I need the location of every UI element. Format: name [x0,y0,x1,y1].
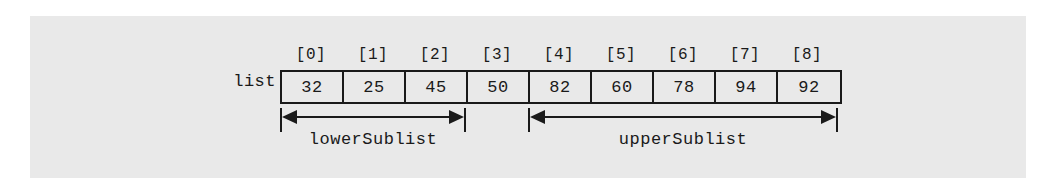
array-cell-0: 32 [282,72,344,102]
index-label-6: [6] [652,46,714,68]
array-cell-5: 60 [592,72,654,102]
double-arrow-icon [280,108,466,132]
index-label-row: [0][1][2][3][4][5][6][7][8] [280,46,838,68]
sublist-label: upperSublist [528,130,838,149]
array-cell-3: 50 [468,72,530,102]
array-name-label: list [216,72,276,91]
diagram-screenshot: list [0][1][2][3][4][5][6][7][8] 3225455… [0,0,1056,196]
array-cell-4: 82 [530,72,592,102]
array-cell-7: 94 [716,72,778,102]
index-label-8: [8] [776,46,838,68]
array-cells: 322545508260789492 [280,70,842,104]
index-label-7: [7] [714,46,776,68]
index-label-5: [5] [590,46,652,68]
array-cell-2: 45 [406,72,468,102]
array-cell-1: 25 [344,72,406,102]
sublist-label: lowerSublist [280,130,466,149]
diagram-panel: list [0][1][2][3][4][5][6][7][8] 3225455… [30,16,1026,178]
array-cell-6: 78 [654,72,716,102]
index-label-1: [1] [342,46,404,68]
double-arrow-icon [528,108,838,132]
index-label-0: [0] [280,46,342,68]
index-label-4: [4] [528,46,590,68]
index-label-2: [2] [404,46,466,68]
array-cell-8: 92 [778,72,840,102]
array-partition-diagram: list [0][1][2][3][4][5][6][7][8] 3225455… [30,16,1026,178]
index-label-3: [3] [466,46,528,68]
